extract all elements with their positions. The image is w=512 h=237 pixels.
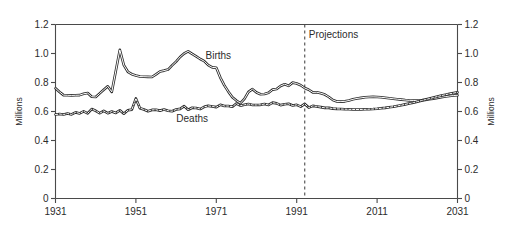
annotations-layer: Projections	[305, 25, 358, 199]
chart-container: 193119511971199120112031 00.20.40.60.81.…	[0, 0, 512, 237]
series-outline-births	[56, 50, 458, 103]
y-tick-label-right: 0.6	[465, 106, 479, 117]
y-axis-right-ticks: 00.20.40.60.81.01.2	[458, 19, 479, 204]
y-tick-label-right: 1.2	[465, 19, 479, 30]
y-tick-label-left: 0.8	[35, 77, 49, 88]
x-tick-label: 1931	[44, 206, 67, 217]
series-outline-deaths	[56, 92, 458, 114]
x-axis-ticks: 193119511971199120112031	[44, 199, 469, 217]
x-tick-label: 1971	[205, 206, 228, 217]
series-label-births: Births	[206, 50, 232, 61]
y-tick-label-left: 1.2	[35, 19, 49, 30]
series-core-deaths	[56, 92, 458, 114]
y-tick-label-left: 0.2	[35, 164, 49, 175]
births-deaths-line-chart: 193119511971199120112031 00.20.40.60.81.…	[0, 0, 512, 237]
y-tick-label-right: 1.0	[465, 48, 479, 59]
projections-label: Projections	[309, 29, 358, 40]
y-tick-label-left: 0.4	[35, 135, 49, 146]
y-tick-label-right: 0.2	[465, 164, 479, 175]
y-axis-left-title: Millions	[14, 97, 24, 125]
y-tick-label-left: 0	[43, 193, 49, 204]
x-tick-label: 2011	[366, 206, 388, 217]
y-tick-label-left: 0.6	[35, 106, 49, 117]
series-label-deaths: Deaths	[176, 113, 208, 124]
series-deaths	[56, 92, 458, 114]
y-axis-left-ticks: 00.20.40.60.81.01.2	[35, 19, 56, 204]
series-births	[56, 50, 458, 103]
x-tick-label: 1951	[125, 206, 148, 217]
y-tick-label-right: 0.4	[465, 135, 479, 146]
x-tick-label: 2031	[446, 206, 469, 217]
y-tick-label-right: 0.8	[465, 77, 479, 88]
series-layer	[56, 50, 458, 115]
y-axis-right-title: Millions	[486, 97, 496, 125]
y-tick-label-right: 0	[465, 193, 471, 204]
y-tick-label-left: 1.0	[35, 48, 49, 59]
x-tick-label: 1991	[286, 206, 309, 217]
